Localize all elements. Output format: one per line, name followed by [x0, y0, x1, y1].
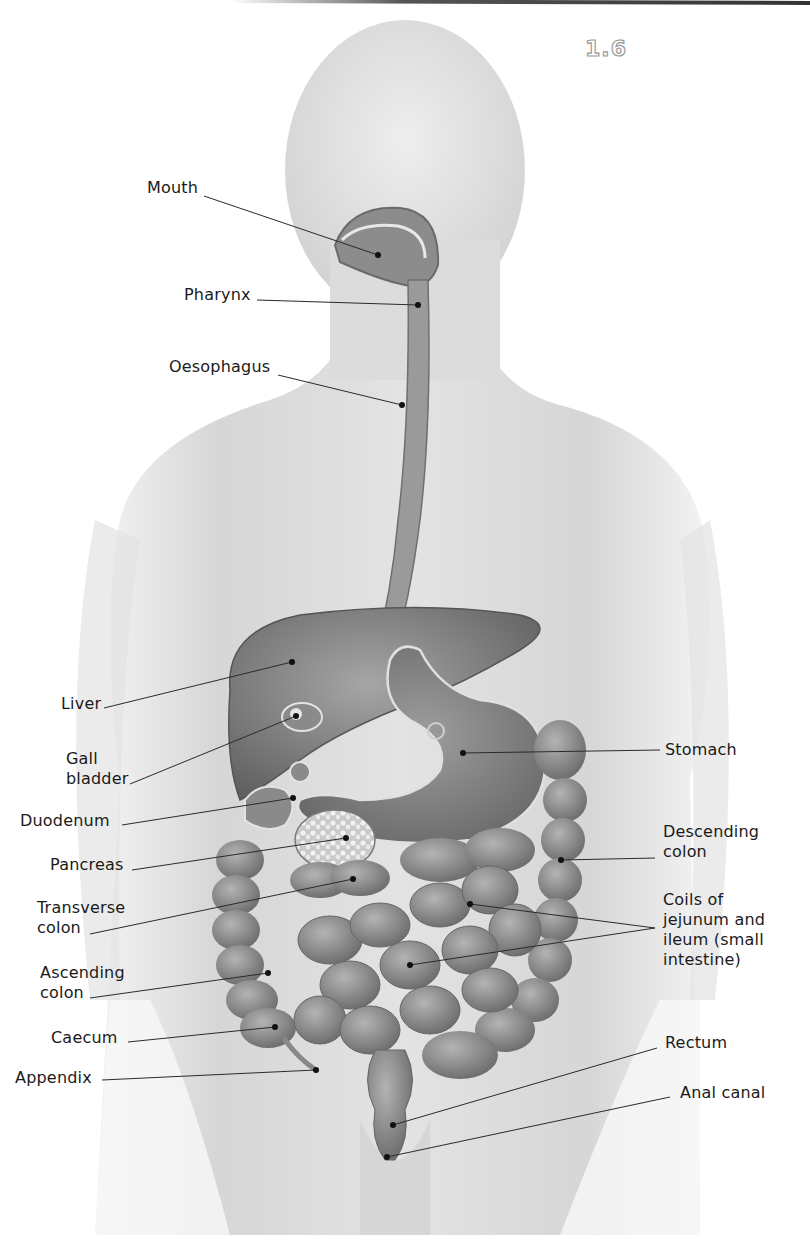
label-appendix: Appendix — [15, 1068, 92, 1088]
leader-dot-coils — [407, 962, 413, 968]
leader-dot-stomach — [460, 750, 466, 756]
label-descending-colon: Descending colon — [663, 822, 759, 862]
label-transverse-colon: Transverse colon — [37, 898, 125, 938]
leader-dot-coils — [467, 901, 473, 907]
leader-dot-transverse-colon — [350, 876, 356, 882]
leader-dot-pancreas — [343, 835, 349, 841]
figure-number: 1.6 — [585, 36, 627, 61]
label-pharynx: Pharynx — [184, 285, 251, 305]
leader-dot-caecum — [272, 1024, 278, 1030]
label-anal-canal: Anal canal — [680, 1083, 765, 1103]
label-mouth: Mouth — [147, 178, 198, 198]
label-pancreas: Pancreas — [50, 855, 123, 875]
label-ascending-colon: Ascending colon — [40, 963, 125, 1003]
leader-dot-oesophagus — [399, 402, 405, 408]
label-gall-bladder: Gall bladder — [66, 749, 129, 789]
label-rectum: Rectum — [665, 1033, 727, 1053]
duodenum-shape — [245, 787, 293, 829]
leader-dot-ascending-colon — [265, 970, 271, 976]
label-caecum: Caecum — [51, 1028, 118, 1048]
leader-dot-descending-colon — [558, 857, 564, 863]
label-oesophagus: Oesophagus — [169, 357, 270, 377]
label-coils-small-intestine: Coils of jejunum and ileum (small intest… — [663, 890, 765, 970]
gall-bladder-shape — [282, 703, 322, 731]
leader-dot-mouth — [375, 252, 381, 258]
leader-dot-liver — [289, 659, 295, 665]
label-duodenum: Duodenum — [20, 811, 110, 831]
digestive-system-illustration — [0, 0, 810, 1260]
leader-dot-duodenum — [290, 795, 296, 801]
label-liver: Liver — [61, 694, 101, 714]
leader-dot-pharynx — [415, 302, 421, 308]
leader-dot-appendix — [313, 1067, 319, 1073]
label-stomach: Stomach — [665, 740, 737, 760]
leader-dot-anal-canal — [384, 1154, 390, 1160]
leader-dot-rectum — [390, 1122, 396, 1128]
leader-dot-gall-bladder — [293, 713, 299, 719]
